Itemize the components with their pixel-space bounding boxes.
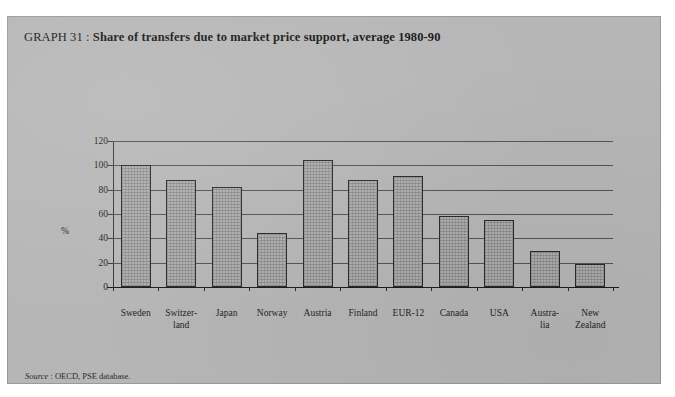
x-tick-mark: [158, 287, 159, 291]
x-tick-mark: [477, 287, 478, 291]
category-label-line: USA: [477, 308, 522, 320]
category-label: EUR-12: [386, 308, 431, 320]
bar: [393, 176, 423, 287]
source-label: Source: [25, 371, 48, 381]
x-tick-mark: [386, 287, 387, 291]
category-label-line: lia: [522, 320, 567, 332]
category-label: USA: [477, 308, 522, 320]
category-label: Canada: [431, 308, 476, 320]
bar: [530, 251, 560, 288]
bar: [166, 180, 196, 287]
x-tick-mark: [295, 287, 296, 291]
bar: [257, 233, 287, 287]
y-tick-label-20: 20: [99, 258, 109, 268]
bar: [212, 187, 242, 287]
category-label-line: Austra-: [522, 308, 567, 320]
y-tick-label-80: 80: [99, 185, 109, 195]
category-label: Japan: [204, 308, 249, 320]
category-label: Norway: [249, 308, 294, 320]
x-tick-mark: [204, 287, 205, 291]
category-label-line: Norway: [249, 308, 294, 320]
category-label-line: New: [568, 308, 613, 320]
gridline-0: [113, 287, 613, 288]
category-label-line: Japan: [204, 308, 249, 320]
y-tick-label-60: 60: [99, 209, 109, 219]
y-tick-label-120: 120: [94, 136, 108, 146]
plot-area: [113, 141, 613, 287]
category-label-line: EUR-12: [386, 308, 431, 320]
x-tick-mark: [522, 287, 523, 291]
bar: [484, 220, 514, 287]
y-axis-tick-labels: 020406080100120: [75, 141, 108, 287]
x-axis-category-labels: SwedenSwitzer-landJapanNorwayAustriaFinl…: [113, 308, 613, 348]
graph-page: GRAPH 31 : Share of transfers due to mar…: [7, 16, 661, 384]
category-label-line: Austria: [295, 308, 340, 320]
category-label-line: Sweden: [113, 308, 158, 320]
bar: [348, 180, 378, 287]
category-label: Austria: [295, 308, 340, 320]
category-label-line: Switzer-: [158, 308, 203, 320]
category-label-line: Canada: [431, 308, 476, 320]
bar: [121, 165, 151, 287]
bar: [575, 264, 605, 287]
category-label-line: land: [158, 320, 203, 332]
category-label: NewZealand: [568, 308, 613, 331]
category-label-line: Zealand: [568, 320, 613, 332]
y-axis-unit-label: %: [61, 226, 69, 236]
category-label: Sweden: [113, 308, 158, 320]
bar: [439, 216, 469, 287]
y-tick-label-40: 40: [99, 233, 109, 243]
title-separator: :: [83, 30, 93, 44]
page-title: GRAPH 31 : Share of transfers due to mar…: [24, 30, 441, 45]
x-tick-mark: [113, 287, 114, 291]
category-label: Austra-lia: [522, 308, 567, 331]
graph-number: GRAPH 31: [24, 30, 83, 44]
x-tick-mark: [613, 287, 614, 291]
x-tick-mark: [568, 287, 569, 291]
category-label: Switzer-land: [158, 308, 203, 331]
source-text: : OECD, PSE database.: [48, 371, 130, 381]
category-label: Finland: [340, 308, 385, 320]
category-label-line: Finland: [340, 308, 385, 320]
source-note: Source : OECD, PSE database.: [25, 371, 130, 381]
x-tick-mark: [249, 287, 250, 291]
bar: [303, 160, 333, 287]
bar-series: [113, 141, 613, 287]
y-tick-label-100: 100: [94, 160, 108, 170]
x-tick-mark: [340, 287, 341, 291]
title-text: Share of transfers due to market price s…: [93, 30, 441, 44]
x-tick-mark: [431, 287, 432, 291]
